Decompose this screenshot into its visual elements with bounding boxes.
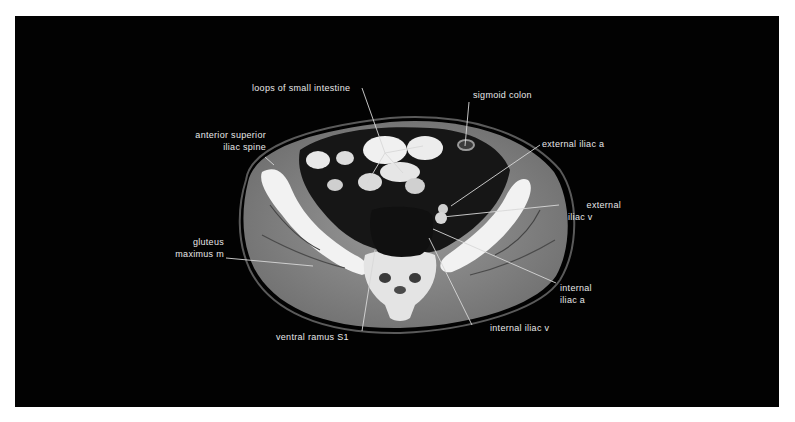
label-line: external: [563, 199, 621, 211]
label-line: maximus m: [158, 248, 224, 260]
label-internal-iliac-v: internal iliac v: [490, 322, 549, 334]
label-line: iliac a: [560, 294, 592, 306]
ct-scan-image: [15, 16, 779, 407]
label-external-iliac-v: external iliac v: [563, 199, 621, 223]
label-line: iliac spine: [158, 141, 266, 153]
label-line: gluteus: [158, 236, 224, 248]
label-line: anterior superior: [158, 129, 266, 141]
label-anterior-superior-iliac-spine: anterior superior iliac spine: [158, 129, 266, 153]
label-gluteus-maximus: gluteus maximus m: [158, 236, 224, 260]
label-loops-small-intestine: loops of small intestine: [252, 82, 350, 94]
label-line: internal: [560, 282, 592, 294]
label-external-iliac-a: external iliac a: [542, 138, 604, 150]
label-ventral-ramus-s1: ventral ramus S1: [276, 331, 349, 343]
label-sigmoid-colon: sigmoid colon: [473, 89, 532, 101]
ct-figure-panel: loops of small intestine sigmoid colon a…: [15, 16, 779, 407]
label-line: iliac v: [563, 211, 621, 223]
label-internal-iliac-a: internal iliac a: [560, 282, 592, 306]
